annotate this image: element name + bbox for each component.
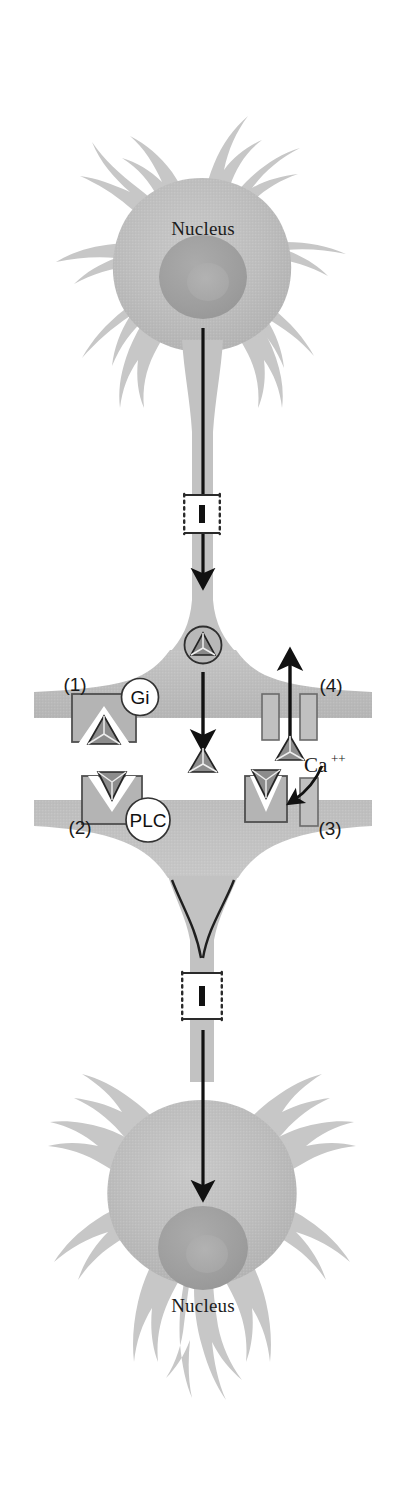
annotation-3-number: (3): [318, 818, 341, 839]
presynaptic-neuron: Nucleus: [56, 116, 346, 654]
postsynaptic-nucleolus: [186, 1235, 228, 1273]
annotation-4-number: (4): [319, 675, 342, 696]
presynaptic-channel-right-subunit[interactable]: [300, 694, 317, 740]
axon-break-upper: [183, 494, 221, 534]
presynaptic-nucleus-label: Nucleus: [171, 218, 235, 239]
annotation-1-number: (1): [63, 674, 86, 695]
synapse-figure: Nucleus: [0, 0, 404, 1493]
released-transmitter: [189, 748, 217, 772]
gi-badge-label: Gi: [131, 687, 150, 708]
neurotransmitter-vesicle: [185, 627, 222, 664]
plc-badge-label: PLC: [130, 810, 167, 831]
annotation-1-gi-receptor[interactable]: Gi (1): [63, 674, 158, 744]
axon-break-lower: [181, 972, 223, 1020]
calcium-ion-base: Ca: [304, 753, 328, 777]
annotation-2-number: (2): [68, 817, 91, 838]
calcium-ion-superscript: ++: [331, 751, 346, 766]
calcium-ion-label: Ca ++: [304, 751, 346, 777]
postsynaptic-nucleus-label: Nucleus: [171, 1295, 235, 1316]
presynaptic-nucleolus: [187, 263, 229, 301]
presynaptic-channel-left-subunit[interactable]: [262, 694, 279, 740]
